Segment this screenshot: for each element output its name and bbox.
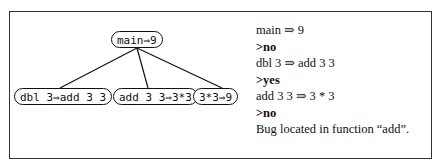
tree-node-child-1: dbl 3⇒add 3 3 xyxy=(14,88,112,105)
tree-node-child-3: 3*3⇒9 xyxy=(193,88,238,105)
tree-node-root: main⇒9 xyxy=(111,31,163,48)
dialog-prompt: >yes xyxy=(256,72,409,89)
dialog-line: main ⇒ 9 xyxy=(256,22,409,39)
dialog-line: add 3 3 ⇒ 3 * 3 xyxy=(256,88,409,105)
dialog-line: Bug located in function “add”. xyxy=(256,121,409,138)
tree-node-child-2: add 3 3⇒3*3 xyxy=(113,88,198,105)
dialog-prompt: >no xyxy=(256,105,409,122)
dialog-prompt: >no xyxy=(256,39,409,56)
debug-dialog: main ⇒ 9 >no dbl 3 ⇒ add 3 3 >yes add 3 … xyxy=(256,22,409,138)
dialog-line: dbl 3 ⇒ add 3 3 xyxy=(256,55,409,72)
